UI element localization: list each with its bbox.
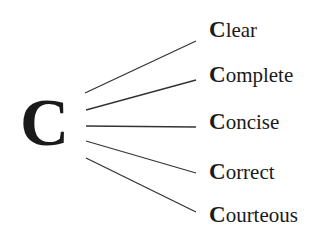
branch-label-concise: Concise (209, 110, 279, 134)
connector-line-3 (86, 126, 196, 127)
connector-line-5 (86, 158, 196, 212)
branch-label-clear: Clear (209, 18, 257, 42)
branch-label-correct: Correct (209, 160, 275, 184)
branch-label-courteous: Courteous (209, 203, 298, 227)
connector-line-4 (86, 141, 196, 173)
branch-label-complete: Complete (209, 63, 293, 87)
